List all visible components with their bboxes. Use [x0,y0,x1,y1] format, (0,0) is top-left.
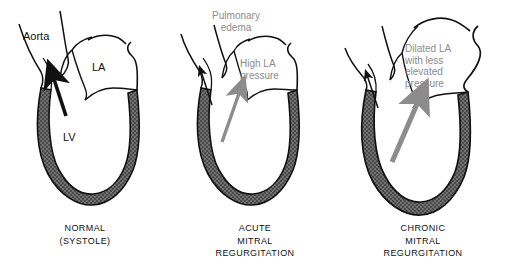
aorta-label: Aorta [23,30,49,42]
caption-acute-mitral-regurgitation: ACUTE MITRAL REGURGITATION [190,222,320,260]
aorta-inner-wall-normal [43,58,52,90]
high-la-pressure-annotation: High LA pressure [240,58,279,81]
aortic-root-stem-chronic [382,26,395,80]
mitral-regurgitation-figure: Aorta LA LV Pulmonary edema High LA pres… [0,0,511,279]
la-right-wall-acute [288,43,298,90]
aortic-valve-leaflet-normal [60,50,72,78]
pulmonary-edema-annotation: Pulmonary edema [198,10,274,33]
la-roof-normal [88,35,126,44]
regurgitant-jet-arrow-acute [222,82,243,142]
aorta-outer-wall-acute [181,34,202,88]
caption-chronic-mitral-regurgitation: CHRONIC MITRAL REGURGITATION [358,222,488,260]
la-roof-chronic [414,18,470,31]
panel-acute-heart [181,25,299,205]
lv-wall-normal [37,88,139,205]
aortic-valve-leaflet-acute [222,51,234,78]
aortic-valve-leaflet-chronic [390,53,402,80]
lv-wall-acute [197,88,299,205]
la-right-wall-chronic [464,26,481,92]
caption-normal: NORMAL (SYSTOLE) [22,222,148,247]
regurgitant-jet-arrow-chronic [392,88,424,162]
lv-label: LV [63,131,76,143]
aorta-inner-wall-chronic [368,64,376,92]
mitral-leaflet-anterior-normal [72,50,87,100]
la-outline-acute [234,39,250,51]
aorta-inner-wall-acute [203,58,212,90]
la-label: LA [92,61,105,73]
aorta-outer-wall-chronic [345,48,367,90]
dilated-la-annotation: Dilated LA with less elevated pressure [405,43,451,89]
la-right-wall-normal [128,42,138,90]
la-roof-acute [248,36,286,45]
